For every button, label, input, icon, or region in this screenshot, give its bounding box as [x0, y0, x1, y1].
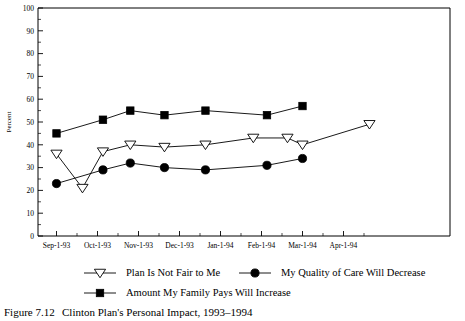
marker-filled-square [99, 116, 106, 123]
marker-open-down-triangle [282, 134, 293, 143]
marker-filled-circle [263, 161, 271, 169]
marker-filled-square [263, 111, 270, 118]
y-tick-label: 90 [27, 27, 35, 36]
y-axis-title: Percent [5, 111, 13, 132]
marker-open-down-triangle [94, 269, 105, 278]
x-tick-label: Oct-1-93 [84, 241, 111, 250]
marker-open-down-triangle [97, 148, 108, 157]
marker-open-down-triangle [297, 141, 308, 150]
x-tick-label: Apr-1-94 [330, 241, 358, 250]
series-my-quality-of-care-will-decrease [52, 154, 306, 187]
caption-number: Figure 7.12 [4, 306, 55, 318]
series-layer [51, 102, 375, 193]
y-tick-label: 40 [27, 141, 35, 150]
y-axis-tick-labels: 0102030405060708090100 [23, 4, 35, 241]
series-amount-my-family-pays-will-increase [53, 102, 306, 137]
marker-filled-square [96, 289, 103, 296]
marker-filled-square [127, 107, 134, 114]
marker-filled-circle [52, 179, 60, 187]
y-tick-label: 50 [27, 118, 35, 127]
figure-caption: Figure 7.12 Clinton Plan's Personal Impa… [4, 306, 253, 318]
marker-filled-square [202, 107, 209, 114]
marker-filled-square [299, 102, 306, 109]
marker-filled-circle [99, 166, 107, 174]
y-tick-label: 60 [27, 95, 35, 104]
marker-filled-circle [251, 269, 259, 277]
marker-open-down-triangle [364, 121, 375, 130]
y-axis-ticks [38, 8, 43, 236]
series-line [57, 106, 303, 133]
marker-open-down-triangle [159, 143, 170, 152]
figure-container: 0102030405060708090100 Sep-1-93Oct-1-93N… [0, 0, 465, 321]
chart-figure: 0102030405060708090100 Sep-1-93Oct-1-93N… [0, 0, 465, 321]
x-axis-tick-labels: Sep-1-93Oct-1-93Nov-1-93Dec-1-93Jan-1-94… [43, 241, 358, 250]
legend-label: Plan Is Not Fair to Me [126, 267, 221, 278]
legend-item: Amount My Family Pays Will Increase [84, 287, 291, 298]
series-plan-is-not-fair-to-me [51, 121, 375, 193]
marker-open-down-triangle [77, 184, 88, 193]
x-tick-label: Mar-1-94 [288, 241, 317, 250]
chart-legend: Plan Is Not Fair to MeMy Quality of Care… [84, 267, 426, 298]
legend-label: Amount My Family Pays Will Increase [126, 287, 291, 298]
y-tick-label: 0 [30, 232, 34, 241]
legend-item: Plan Is Not Fair to Me [84, 267, 221, 278]
x-tick-label: Jan-1-94 [207, 241, 233, 250]
legend-label: My Quality of Care Will Decrease [281, 267, 426, 278]
x-tick-label: Nov-1-93 [124, 241, 153, 250]
marker-filled-circle [126, 159, 134, 167]
legend-item: My Quality of Care Will Decrease [239, 267, 426, 278]
y-tick-label: 10 [27, 209, 35, 218]
marker-open-down-triangle [51, 150, 62, 159]
y-tick-label: 100 [23, 4, 35, 13]
x-axis-ticks [57, 231, 365, 236]
y-tick-label: 30 [27, 163, 35, 172]
marker-filled-square [161, 111, 168, 118]
x-tick-label: Feb-1-94 [248, 241, 276, 250]
marker-filled-square [53, 130, 60, 137]
y-tick-label: 70 [27, 72, 35, 81]
caption-title: Clinton Plan's Personal Impact, 1993–199… [62, 306, 253, 318]
y-tick-label: 20 [27, 186, 35, 195]
y-tick-label: 80 [27, 49, 35, 58]
marker-filled-circle [298, 154, 306, 162]
marker-filled-circle [201, 166, 209, 174]
x-tick-label: Dec-1-93 [165, 241, 194, 250]
marker-filled-circle [160, 164, 168, 172]
x-tick-label: Sep-1-93 [43, 241, 71, 250]
